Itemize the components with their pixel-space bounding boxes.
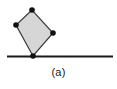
figure-caption: (a): [0, 66, 117, 79]
vertex-left-dot: [13, 22, 19, 28]
vertex-bottom-contact-dot: [30, 53, 36, 59]
vertex-top-dot: [29, 7, 35, 13]
vertex-right-dot: [50, 30, 56, 36]
quadrilateral-block: [16, 10, 53, 56]
figure-panel: (a): [0, 0, 117, 89]
